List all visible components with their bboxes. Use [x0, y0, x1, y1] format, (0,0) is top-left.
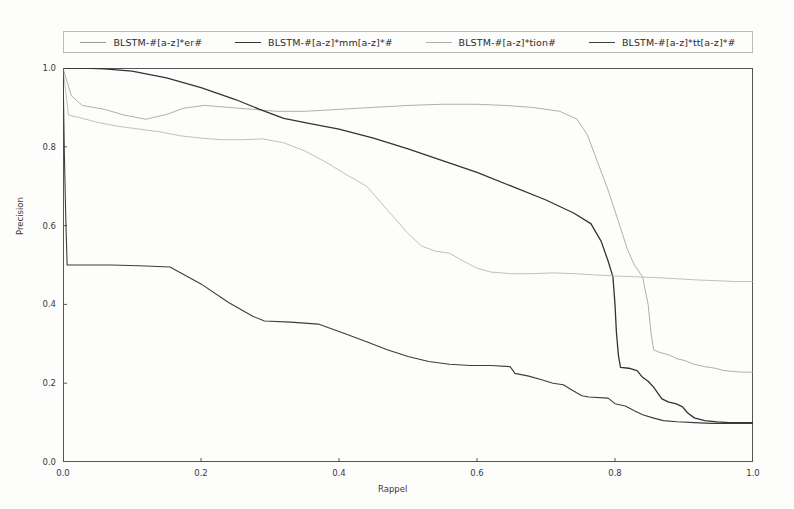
legend-line-swatch: [426, 42, 452, 43]
legend-entry[interactable]: BLSTM-#[a-z]*er#: [80, 37, 202, 48]
plot-area: [63, 68, 753, 462]
x-tick-label: 0.6: [470, 468, 484, 478]
legend-line-swatch: [235, 42, 261, 43]
x-axis-label: Rappel: [378, 484, 407, 494]
legend-entry[interactable]: BLSTM-#[a-z]*mm[a-z]*#: [235, 37, 393, 48]
y-tick-label: 0.4: [42, 299, 56, 309]
x-tick-label: 0.0: [56, 468, 70, 478]
data-series-line: [63, 68, 753, 372]
x-tick-label: 0.2: [194, 468, 208, 478]
x-tick-label: 0.4: [332, 468, 346, 478]
line-chart-svg: [63, 68, 753, 462]
legend-label: BLSTM-#[a-z]*er#: [113, 37, 202, 48]
legend-line-swatch: [80, 42, 106, 43]
axis-frame: [64, 69, 753, 462]
data-series-line: [63, 68, 753, 423]
legend-entry[interactable]: BLSTM-#[a-z]*tion#: [426, 37, 557, 48]
x-tick-label: 1.0: [746, 468, 760, 478]
x-tick-label: 0.8: [608, 468, 622, 478]
y-tick-label: 0.2: [42, 378, 56, 388]
legend-label: BLSTM-#[a-z]*tion#: [459, 37, 557, 48]
y-tick-label: 0.6: [42, 221, 56, 231]
legend-line-swatch: [589, 42, 615, 43]
legend-entry[interactable]: BLSTM-#[a-z]*tt[a-z]*#: [589, 37, 736, 48]
legend-label: BLSTM-#[a-z]*mm[a-z]*#: [268, 37, 393, 48]
legend-label: BLSTM-#[a-z]*tt[a-z]*#: [622, 37, 736, 48]
y-tick-label: 1.0: [42, 63, 56, 73]
y-axis-label: Precision: [15, 197, 25, 235]
y-tick-label: 0.8: [42, 142, 56, 152]
figure-canvas: BLSTM-#[a-z]*er# BLSTM-#[a-z]*mm[a-z]*# …: [0, 0, 794, 509]
data-series-line: [63, 68, 753, 423]
chart-legend: BLSTM-#[a-z]*er# BLSTM-#[a-z]*mm[a-z]*# …: [63, 31, 753, 53]
y-tick-label: 0.0: [42, 457, 56, 467]
data-series-line: [63, 68, 753, 282]
